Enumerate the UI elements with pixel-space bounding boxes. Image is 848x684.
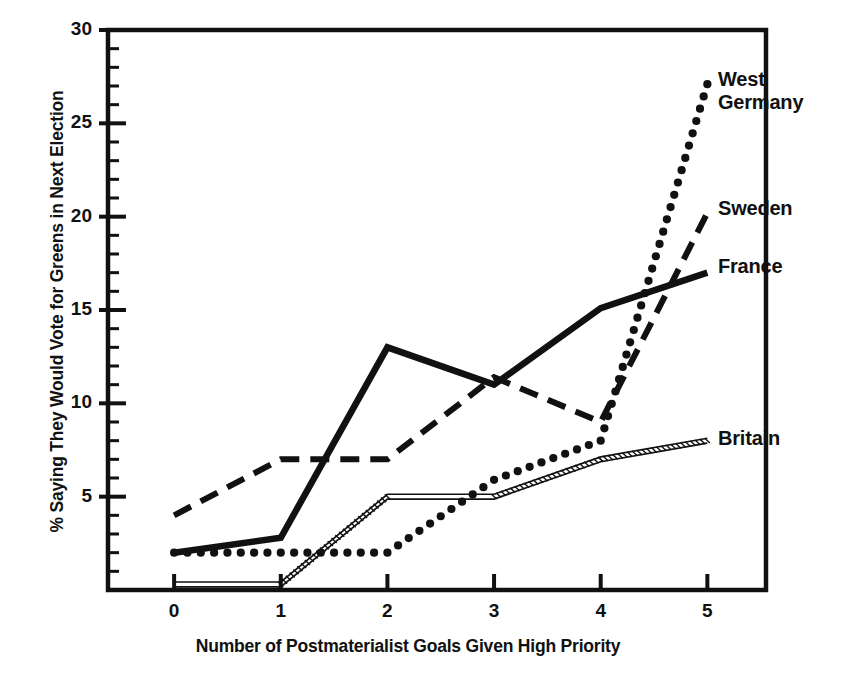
series-label-france: France <box>718 255 782 278</box>
y-tick-label: 10 <box>50 391 92 413</box>
y-tick-label: 5 <box>50 485 92 507</box>
x-tick-label: 5 <box>687 600 727 622</box>
series-label-west-germany: West Germany <box>718 68 803 114</box>
series-west-germany <box>170 80 711 557</box>
plot-frame <box>108 30 766 590</box>
series-label-sweden: Sweden <box>718 197 792 220</box>
x-tick-label: 3 <box>474 600 514 622</box>
series-label-west-germany-line1: West <box>718 68 803 91</box>
y-tick-label: 15 <box>50 298 92 320</box>
x-tick-label: 4 <box>581 600 621 622</box>
series-label-west-germany-line2: Germany <box>718 91 803 114</box>
series-label-britain: Britain <box>718 427 780 450</box>
series-france <box>174 273 707 553</box>
y-tick-label: 30 <box>50 18 92 40</box>
x-tick-label: 0 <box>154 600 194 622</box>
x-axis-title: Number of Postmaterialist Goals Given Hi… <box>108 636 708 657</box>
chart-root: % Saying They Would Vote for Greens in N… <box>0 0 848 684</box>
x-tick-label: 2 <box>367 600 407 622</box>
x-tick-label: 1 <box>261 600 301 622</box>
y-tick-label: 20 <box>50 205 92 227</box>
y-tick-label: 25 <box>50 111 92 133</box>
